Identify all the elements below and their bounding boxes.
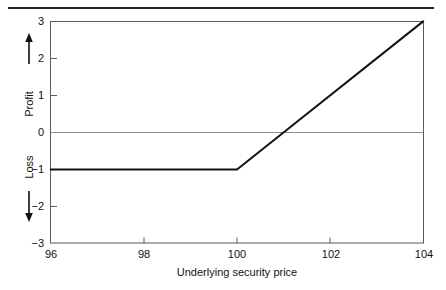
figure-container: 3 2 1 0 −1 −2 −3 96 98 100 102 104 Under…: [0, 0, 446, 290]
x-tick-label-104: 104: [404, 249, 444, 260]
y-tick-label-neg3: −3: [18, 238, 44, 249]
y-tick-label-3: 3: [18, 16, 44, 27]
loss-down-arrow-icon: [25, 191, 33, 222]
y-axis-title-loss: Loss: [23, 155, 35, 179]
y-axis-title-profit: Profit: [23, 91, 35, 117]
y-axis-title-group: Profit Loss: [6, 28, 42, 238]
x-tick-label-96: 96: [31, 249, 71, 260]
profit-up-arrow-icon: [25, 33, 33, 64]
payoff-chart: [0, 0, 446, 290]
x-tick-label-98: 98: [124, 249, 164, 260]
x-axis-title: Underlying security price: [50, 266, 424, 278]
x-tick-label-102: 102: [311, 249, 351, 260]
x-tick-label-100: 100: [217, 249, 257, 260]
payoff-data-line: [51, 22, 423, 170]
